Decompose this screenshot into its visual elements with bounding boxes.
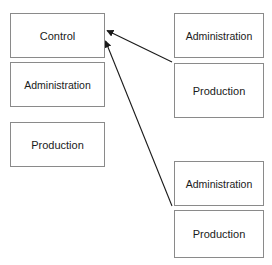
node-label: Control xyxy=(40,30,75,42)
node-administration-top-right[interactable]: Administration xyxy=(174,13,264,58)
node-label: Production xyxy=(193,228,246,240)
node-label: Administration xyxy=(186,30,253,42)
arrow-top-right-to-control xyxy=(107,31,172,63)
node-label: Administration xyxy=(24,79,91,91)
node-control-left[interactable]: Control xyxy=(10,13,105,58)
diagram-canvas: Control Administration Production Admini… xyxy=(0,0,272,265)
node-label: Production xyxy=(193,85,246,97)
node-administration-left[interactable]: Administration xyxy=(10,62,105,107)
node-production-bottom-right[interactable]: Production xyxy=(174,210,264,258)
arrow-bottom-right-to-control xyxy=(106,41,173,206)
node-administration-bottom-right[interactable]: Administration xyxy=(174,161,264,206)
cropped-top-text xyxy=(0,0,272,6)
node-label: Administration xyxy=(186,178,253,190)
node-production-left[interactable]: Production xyxy=(10,122,105,167)
node-production-top-right[interactable]: Production xyxy=(174,63,264,118)
node-label: Production xyxy=(31,139,84,151)
